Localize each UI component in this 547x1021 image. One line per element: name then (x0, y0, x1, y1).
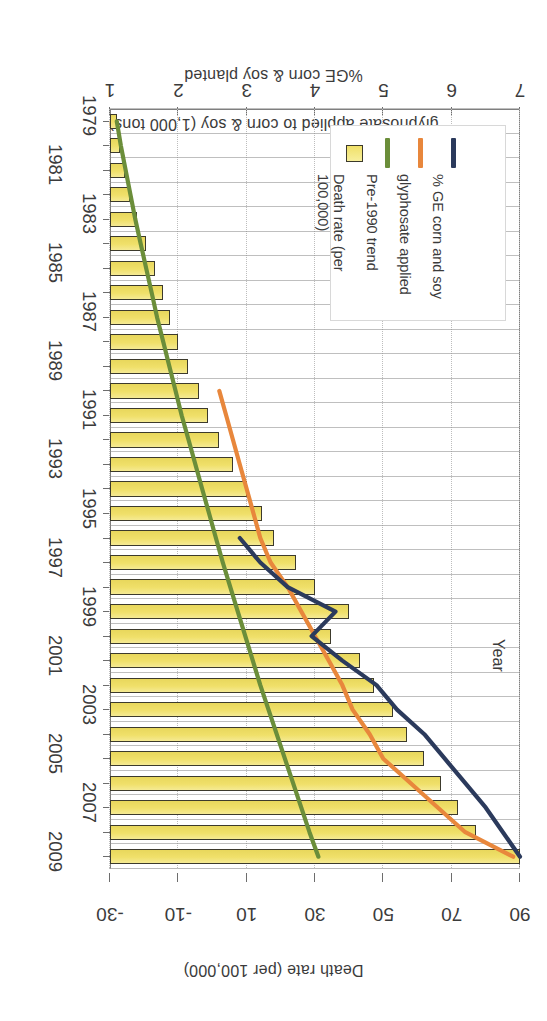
axis-tick-mark (177, 873, 178, 882)
axis-tick-mark (451, 873, 452, 882)
axis-tick-label: 6 (427, 79, 477, 101)
axis-tick-label: 4 (290, 79, 340, 101)
chart-legend: Death rate (per 100,000)Pre-1990 trendgl… (330, 125, 506, 321)
legend-label: Pre-1990 trend (364, 174, 380, 324)
legend-swatch-line (418, 138, 423, 168)
category-axis-label: 2001 (44, 635, 66, 676)
category-axis-label: 2005 (44, 733, 66, 774)
axis-tick-mark (246, 873, 247, 882)
chart-figure: glyphosate applied to corn & soy (1,000 … (0, 0, 547, 1021)
axis-tick-label: -30 (85, 903, 135, 925)
category-axis-label: 2003 (78, 684, 100, 725)
line-series (117, 121, 319, 856)
category-axis-label: 1991 (78, 389, 100, 430)
axis-tick-label: 5 (358, 79, 408, 101)
legend-label: glyphosate applied (397, 174, 413, 324)
category-axis-label: 1995 (78, 488, 100, 529)
axis-tick-label: -10 (153, 903, 203, 925)
legend-swatch-bar (346, 145, 363, 162)
legend-swatch-line (385, 138, 390, 168)
axis-tick-label: 7 (495, 79, 545, 101)
legend-label: Death rate (per 100,000) (315, 174, 347, 324)
legend-swatch-line (451, 138, 456, 168)
category-axis-label: 1999 (78, 586, 100, 627)
axis-tick-label: 10 (222, 903, 272, 925)
category-axis-label: 1989 (44, 340, 66, 381)
category-axis-label: 1993 (44, 438, 66, 479)
axis-tick-label: 70 (427, 903, 477, 925)
axis-tick-label: 50 (358, 903, 408, 925)
axis-tick-mark (519, 873, 520, 882)
axis-tick-mark (382, 873, 383, 882)
category-axis-label: 1981 (44, 144, 66, 185)
axis-tick-label: 2 (153, 79, 203, 101)
category-axis-label: 2009 (44, 831, 66, 872)
category-axis-label: 1985 (44, 242, 66, 283)
rotated-figure-wrapper: glyphosate applied to corn & soy (1,000 … (0, 0, 547, 1021)
primary-axis-title: Death rate (per 100,000) (0, 961, 547, 979)
chart-page: glyphosate applied to corn & soy (1,000 … (0, 0, 547, 1021)
category-axis-label: 1979 (78, 95, 100, 136)
axis-tick-mark (109, 873, 110, 882)
axis-tick-mark (314, 873, 315, 882)
category-axis-label: 1987 (78, 291, 100, 332)
line-series (240, 538, 520, 857)
legend-label: % GE corn and soy (430, 174, 446, 324)
axis-tick-label: 90 (495, 903, 545, 925)
category-axis-label: 2007 (78, 782, 100, 823)
axis-tick-label: 30 (290, 903, 340, 925)
category-axis-label: 1983 (78, 193, 100, 234)
axis-tick-label: 3 (222, 79, 272, 101)
category-axis-label: 1997 (44, 537, 66, 578)
